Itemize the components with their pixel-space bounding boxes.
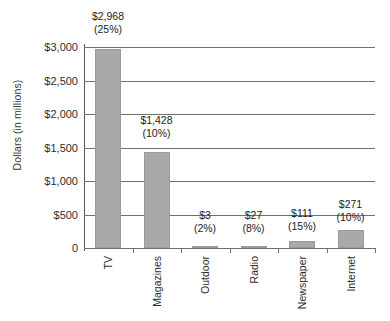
gridline [84,181,375,182]
x-category-label-outdoor: Outdoor [198,254,212,318]
x-axis-tick [278,248,279,253]
gridline [84,215,375,216]
x-axis-tick [230,248,231,253]
bar-percent-internet: (10%) [336,211,364,224]
gridline [84,47,375,48]
x-axis-tick [327,248,328,253]
plot-area [84,47,375,248]
x-axis-tick [181,248,182,253]
y-axis-tick-labels: $3,000 $2,500 $2,000 $1,500 $1,000 $500 … [30,0,84,321]
gridline [84,114,375,115]
x-category-text: Radio [248,256,260,283]
x-category-label-magazines: Magazines [150,254,164,318]
y-tick-label: $3,000 [30,41,84,53]
bar-chart-figure: Dollars (in millions) $3,000 $2,500 $2,0… [0,0,390,321]
bar-percent-tv: (25%) [92,23,124,36]
bar-radio [241,246,267,248]
x-axis-tick [375,248,376,253]
y-tick-label: $500 [30,209,84,221]
y-tick-label: $1,000 [30,175,84,187]
gridline [84,81,375,82]
x-category-text: TV [102,256,114,269]
x-axis-tick [133,248,134,253]
bar-value-newspaper: $111 [288,207,316,220]
bar-percent-outdoor: (2%) [194,222,216,235]
bar-outdoor [192,246,218,248]
bar-internet [338,230,364,248]
x-category-text: Newspaper [296,256,308,309]
bar-label-tv: $2,968 (25%) [92,10,124,35]
bar-percent-magazines: (10%) [140,127,172,140]
x-category-label-tv: TV [101,254,115,318]
bar-label-outdoor: $3 (2%) [194,209,216,234]
y-tick-label: $2,000 [30,108,84,120]
x-category-text: Outdoor [199,256,211,294]
bar-value-tv: $2,968 [92,10,124,23]
x-category-label-newspaper: Newspaper [295,254,309,318]
x-category-text: Magazines [151,256,163,307]
bar-label-internet: $271 (10%) [336,198,364,223]
x-category-label-radio: Radio [247,254,261,318]
x-category-label-internet: Internet [344,254,358,318]
gridline [84,148,375,149]
bar-value-radio: $27 [242,209,264,222]
bar-value-outdoor: $3 [194,209,216,222]
y-tick-label: $2,500 [30,75,84,87]
x-category-text: Internet [345,256,357,292]
y-axis-title-label: Dollars (in millions) [11,80,23,171]
bar-newspaper [289,241,315,248]
y-tick-label: $1,500 [30,142,84,154]
bar-magazines [144,152,170,248]
bar-percent-newspaper: (15%) [288,220,316,233]
y-axis-title: Dollars (in millions) [0,0,34,250]
bar-label-newspaper: $111 (15%) [288,207,316,232]
bar-value-magazines: $1,428 [140,114,172,127]
y-tick-label: 0 [30,242,84,254]
bar-label-magazines: $1,428 (10%) [140,114,172,139]
bar-percent-radio: (8%) [242,222,264,235]
bar-tv [95,49,121,248]
bar-value-internet: $271 [336,198,364,211]
bar-label-radio: $27 (8%) [242,209,264,234]
